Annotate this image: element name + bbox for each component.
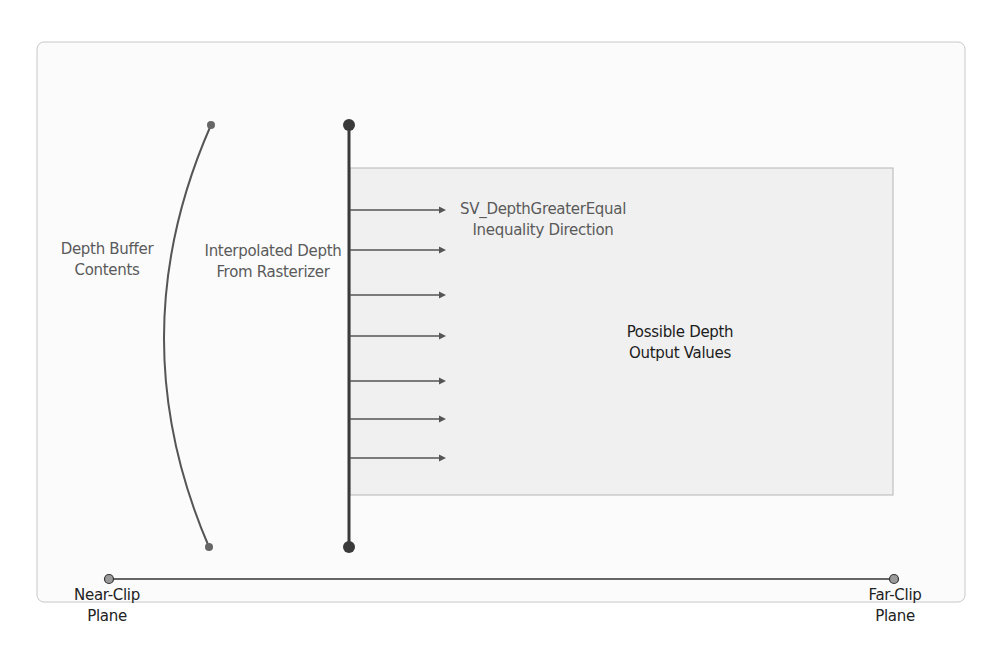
possible-output-label-line1: Possible Depth	[600, 322, 760, 343]
interpolated-top-endpoint	[343, 119, 355, 131]
depth-buffer-label-line1: Depth Buffer	[52, 239, 162, 260]
depth-buffer-label: Depth Buffer Contents	[52, 239, 162, 281]
near-clip-label-line2: Plane	[62, 606, 152, 627]
near-clip-endpoint	[105, 575, 114, 584]
possible-output-label-line2: Output Values	[600, 343, 760, 364]
far-clip-endpoint	[890, 575, 899, 584]
near-clip-label: Near-Clip Plane	[62, 585, 152, 627]
curve-top-endpoint	[207, 121, 215, 129]
diagram-canvas	[0, 0, 999, 665]
interpolated-depth-label: Interpolated Depth From Rasterizer	[198, 241, 348, 283]
far-clip-label-line1: Far-Clip	[850, 585, 940, 606]
inequality-label-line2: Inequality Direction	[448, 220, 638, 241]
near-clip-label-line1: Near-Clip	[62, 585, 152, 606]
interpolated-depth-label-line2: From Rasterizer	[198, 262, 348, 283]
far-clip-label: Far-Clip Plane	[850, 585, 940, 627]
interpolated-depth-label-line1: Interpolated Depth	[198, 241, 348, 262]
interpolated-bottom-endpoint	[343, 541, 355, 553]
inequality-label-line1: SV_DepthGreaterEqual	[448, 199, 638, 220]
inequality-direction-label: SV_DepthGreaterEqual Inequality Directio…	[448, 199, 638, 241]
depth-buffer-label-line2: Contents	[52, 260, 162, 281]
curve-bottom-endpoint	[205, 543, 213, 551]
possible-output-label: Possible Depth Output Values	[600, 322, 760, 364]
far-clip-label-line2: Plane	[850, 606, 940, 627]
depth-diagram: Depth Buffer Contents Interpolated Depth…	[0, 0, 999, 665]
